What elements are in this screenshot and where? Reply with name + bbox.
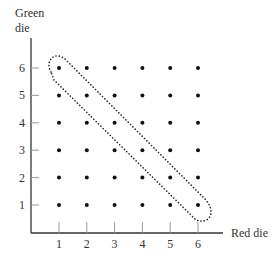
- outcome-dot: [85, 203, 89, 207]
- outcome-dot: [113, 93, 117, 97]
- x-tick-label: 2: [84, 237, 90, 251]
- outcome-dot: [57, 121, 61, 125]
- outcome-dot: [168, 203, 172, 207]
- sample-space-diagram: [0, 0, 280, 259]
- outcome-dot: [85, 66, 89, 70]
- outcome-dot: [113, 176, 117, 180]
- outcome-dot: [57, 203, 61, 207]
- outcome-dot: [57, 66, 61, 70]
- outcome-dot: [168, 176, 172, 180]
- outcome-dot: [196, 66, 200, 70]
- y-tick-label: 4: [19, 116, 25, 130]
- x-tick-label: 4: [139, 237, 145, 251]
- sum-seven-loop: [49, 56, 211, 221]
- outcome-dot: [57, 176, 61, 180]
- outcome-dot: [85, 121, 89, 125]
- outcome-dot: [168, 121, 172, 125]
- outcome-dot: [113, 148, 117, 152]
- x-tick-label: 5: [167, 237, 173, 251]
- outcome-dot: [140, 176, 144, 180]
- outcome-dot: [140, 93, 144, 97]
- y-tick-label: 6: [19, 61, 25, 75]
- outcome-dot: [196, 148, 200, 152]
- x-tick-label: 3: [112, 237, 118, 251]
- outcome-dot: [57, 93, 61, 97]
- outcome-dot: [168, 66, 172, 70]
- outcome-dot: [113, 66, 117, 70]
- outcome-dot: [196, 203, 200, 207]
- outcome-dot: [196, 93, 200, 97]
- outcome-dot: [140, 121, 144, 125]
- outcome-dot: [85, 176, 89, 180]
- outcome-dot: [57, 148, 61, 152]
- y-tick-label: 1: [19, 198, 25, 212]
- outcome-dot: [85, 93, 89, 97]
- x-tick-label: 6: [195, 237, 201, 251]
- outcome-dot: [196, 176, 200, 180]
- outcome-dot: [196, 121, 200, 125]
- y-tick-label: 3: [19, 143, 25, 157]
- y-tick-label: 2: [19, 171, 25, 185]
- outcome-dot: [140, 148, 144, 152]
- x-tick-label: 1: [56, 237, 62, 251]
- y-tick-label: 5: [19, 88, 25, 102]
- outcome-dot: [168, 93, 172, 97]
- outcome-dot: [113, 203, 117, 207]
- outcome-dot: [168, 148, 172, 152]
- outcome-dot: [140, 203, 144, 207]
- outcome-dot: [140, 66, 144, 70]
- outcome-dot: [85, 148, 89, 152]
- outcome-dot: [113, 121, 117, 125]
